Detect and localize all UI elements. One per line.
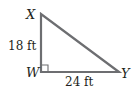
vertex-label-y: Y: [121, 66, 131, 81]
side-label-xw: 18 ft: [8, 39, 37, 53]
vertex-label-x: X: [25, 7, 36, 22]
vertex-label-w: W: [26, 65, 41, 80]
triangle-diagram: X W Y 18 ft 24 ft: [0, 0, 139, 92]
triangle-xwy: [41, 14, 119, 72]
side-label-wy: 24 ft: [65, 75, 94, 89]
